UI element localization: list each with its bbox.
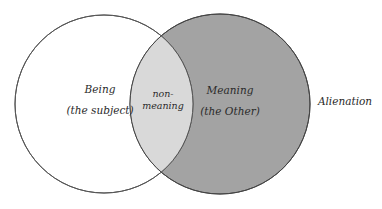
meaning-label: Meaning [206, 84, 254, 96]
being-label: Being [84, 83, 116, 95]
venn-diagram: Being (the subject) non- meaning Meaning… [0, 0, 382, 209]
non-meaning-label-line2: meaning [142, 100, 184, 111]
alienation-caption: Alienation [317, 95, 372, 107]
non-meaning-label-line1: non- [152, 88, 173, 99]
meaning-subtitle: (the Other) [200, 105, 260, 117]
being-subtitle: (the subject) [66, 104, 133, 116]
